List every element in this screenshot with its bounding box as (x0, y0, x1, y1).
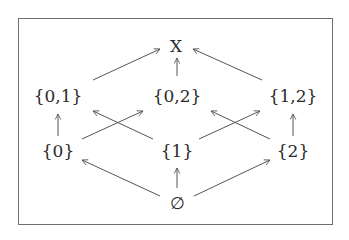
node-e: ∅ (170, 195, 185, 212)
node-02: {0,2} (153, 88, 202, 105)
node-1: {1} (161, 143, 193, 160)
arrow-edges (58, 49, 293, 196)
arrow-1-to-01 (93, 111, 153, 139)
arrow-1-to-12 (199, 111, 260, 139)
node-X: X (170, 38, 182, 55)
node-0: {0} (42, 143, 74, 160)
node-2: {2} (277, 143, 309, 160)
arrow-12-to-X (193, 49, 262, 80)
arrow-e-to-0 (82, 160, 160, 196)
node-01: {0,1} (34, 88, 83, 105)
arrow-0-to-02 (82, 111, 143, 139)
node-12: {1,2} (269, 88, 318, 105)
arrow-e-to-2 (194, 160, 270, 196)
arrow-01-to-X (93, 49, 160, 80)
arrow-2-to-02 (211, 111, 270, 139)
